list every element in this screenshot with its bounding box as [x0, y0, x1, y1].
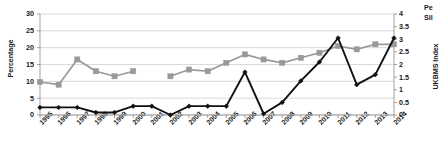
- legend-entry[interactable]: Sil: [424, 14, 448, 21]
- axis-lines: [37, 14, 397, 118]
- legend-label: Pe: [424, 4, 433, 11]
- legend-entry[interactable]: Pe: [424, 4, 448, 11]
- plot-area: [0, 0, 448, 145]
- chart-container: Percentage UKBMS Index 302520151050 43.5…: [0, 0, 448, 145]
- legend-label: Sil: [424, 14, 433, 21]
- gridlines: [40, 14, 394, 115]
